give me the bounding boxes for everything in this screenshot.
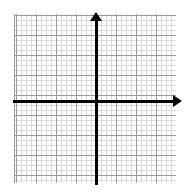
y-axis-arrowhead-icon <box>90 12 102 21</box>
y-axis-line <box>95 18 98 185</box>
coordinate-plane-figure <box>0 0 185 195</box>
x-axis-arrowhead-icon <box>173 95 182 107</box>
